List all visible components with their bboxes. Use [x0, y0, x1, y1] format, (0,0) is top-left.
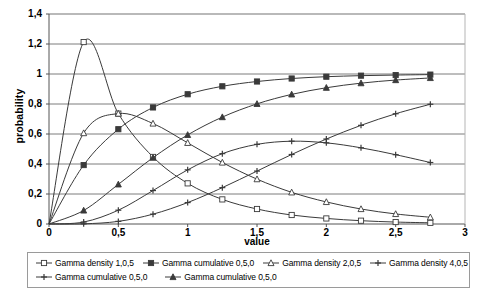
legend-item[interactable]: Gamma cumulative 0,5,0: [143, 258, 254, 268]
legend-item-label: Gamma cumulative 0,5,0: [162, 259, 254, 268]
chart-figure: probability 00,20,40,60,811,21,4 00,511,…: [0, 0, 500, 298]
data-series: [49, 39, 433, 227]
legend-item-label: Gamma density 4,0,5: [389, 259, 468, 268]
series-3: [49, 138, 433, 225]
series-5: [49, 75, 433, 224]
legend-item-label: Gamma density 1,0,5: [55, 259, 134, 268]
series-0: [49, 39, 433, 225]
x-axis-title: value: [49, 236, 465, 247]
chart-legend: Gamma density 1,0,5Gamma cumulative 0,5,…: [27, 252, 470, 288]
legend-item[interactable]: Gamma density 2,0,5: [263, 258, 361, 268]
legend-marker-filled-square: [143, 258, 159, 268]
legend-row-2: Gamma cumulative 0,5,0Gamma cumulative 0…: [30, 270, 467, 284]
series-2: [49, 110, 433, 224]
legend-item-label: Gamma cumulative 0,5,0: [55, 273, 147, 282]
legend-item[interactable]: Gamma cumulative 0,5,0: [36, 272, 147, 282]
legend-item-label: Gamma density 2,0,5: [282, 259, 361, 268]
legend-item[interactable]: Gamma cumulative 0,5,0: [165, 272, 276, 282]
legend-item-label: Gamma cumulative 0,5,0: [184, 273, 276, 282]
legend-marker-open-triangle: [263, 258, 279, 268]
plot-axes: [46, 14, 465, 227]
legend-marker-filled-triangle: [165, 272, 181, 282]
legend-marker-open-square: [36, 258, 52, 268]
legend-row-1: Gamma density 1,0,5Gamma cumulative 0,5,…: [30, 256, 467, 270]
legend-item[interactable]: Gamma density 4,0,5: [370, 258, 468, 268]
legend-marker-cross: [36, 272, 52, 282]
legend-marker-cross: [370, 258, 386, 268]
legend-item[interactable]: Gamma density 1,0,5: [36, 258, 134, 268]
